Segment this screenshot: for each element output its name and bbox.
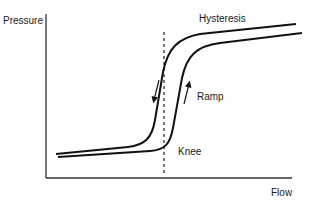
hysteresis-label: Hysteresis (199, 14, 246, 24)
up-arrow-icon (184, 84, 189, 104)
hysteresis-curve (56, 24, 296, 154)
ramp-label: Ramp (197, 92, 224, 102)
y-axis-label: Pressure (3, 16, 43, 26)
hysteresis-diagram (0, 0, 314, 200)
knee-label: Knee (178, 147, 201, 157)
x-axis-label: Flow (271, 188, 292, 198)
ramp-curve (58, 33, 302, 157)
